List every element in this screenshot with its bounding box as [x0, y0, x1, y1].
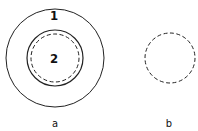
diagram-canvas: 1 2 a b [0, 0, 198, 131]
figure-b: b [145, 33, 195, 130]
figure-a: 1 2 a [6, 8, 104, 130]
caption-b: b [166, 117, 172, 130]
dashed-circle-b [145, 33, 195, 83]
label-region-1: 1 [50, 8, 58, 23]
label-region-2: 2 [50, 51, 58, 66]
caption-a: a [52, 117, 58, 130]
